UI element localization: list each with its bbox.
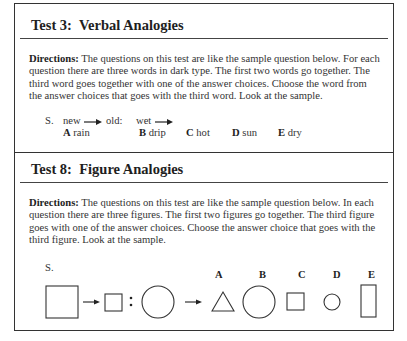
small-square-figure [105,294,122,311]
choice-c[interactable]: C hot [186,127,210,138]
choice-b[interactable]: B drip [139,127,166,138]
directions: Directions: The questions on this test a… [29,53,381,103]
arrow-right-icon [83,300,100,305]
choice-e-rectangle-figure [361,285,376,317]
triangle-figure [212,292,234,311]
arrow-right-icon [185,300,202,305]
choice-letter: D [232,127,240,138]
choice-letter: A [63,127,71,138]
stem-word-1: new [63,115,81,126]
directions-text: The questions on this test are like the … [29,53,380,101]
arrow-right-icon [83,118,103,126]
choice-a[interactable]: A rain [63,127,90,138]
large-square-figure [46,286,78,318]
choice-d[interactable]: D sun [232,127,257,138]
choice-word: sun [242,127,257,138]
arrow-right-icon [154,118,174,126]
directions-label: Directions: [29,53,79,64]
test-page-frame: Test 3: Verbal Analogies Directions: The… [14,3,394,331]
choice-word: hot [196,127,210,138]
choice-b-circle-figure [243,286,275,318]
choice-c-square-figure [287,293,304,310]
verbal-analogies-section: Test 3: Verbal Analogies Directions: The… [15,4,393,152]
choice-letter: C [186,127,194,138]
choice-letter: B [139,127,146,138]
stem-word-3: wet [136,115,151,126]
choice-word: drip [149,127,166,138]
figure-sample-row [15,153,395,333]
section-title: Test 3: Verbal Analogies [31,17,184,34]
large-circle-figure [142,286,174,318]
title-rule [20,38,388,39]
choice-d-circle-figure [324,294,340,310]
choice-word: rain [73,127,89,138]
choice-letter: E [278,127,285,138]
stem-word-2: old: [106,115,122,126]
sample-marker: S. [45,115,54,126]
colon-separator [130,297,133,307]
choice-e[interactable]: E dry [278,127,302,138]
choice-word: dry [288,127,302,138]
figure-analogies-section: Test 8: Figure Analogies Directions: The… [15,152,393,333]
sample-stem-3: wet [136,115,174,126]
sample-stem: new old: [63,115,122,126]
